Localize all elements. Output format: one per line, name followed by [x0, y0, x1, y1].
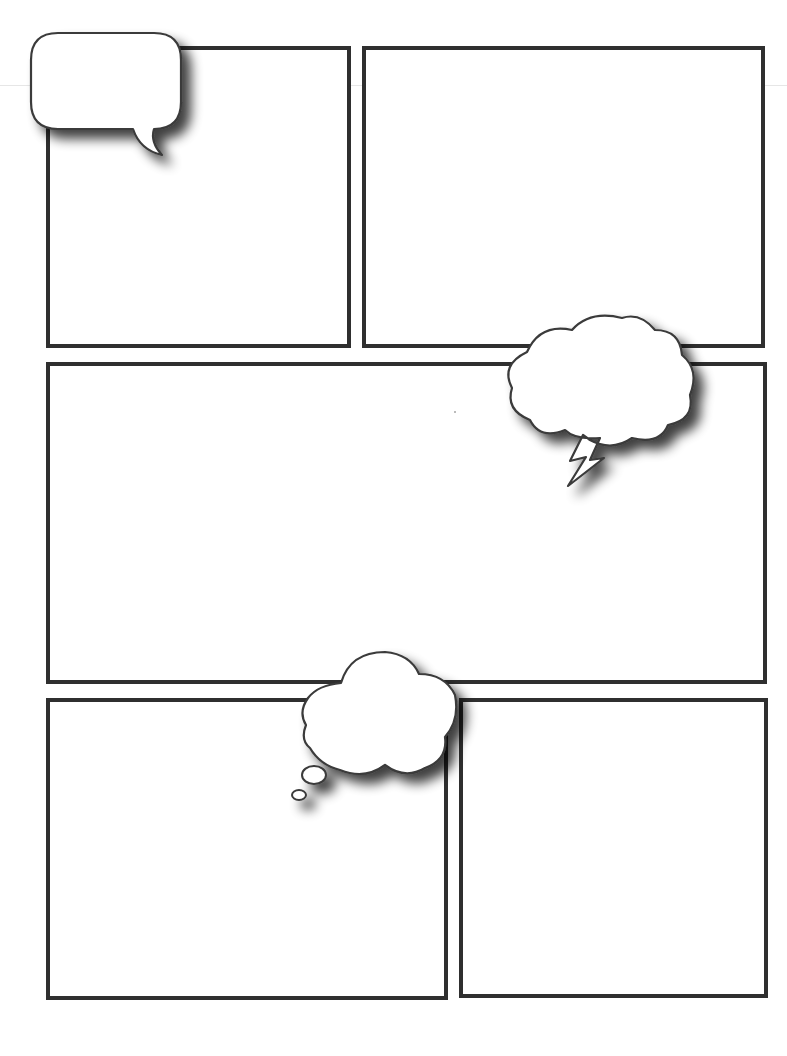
panel-4-label: [50, 702, 51, 703]
panel-5-label: [463, 702, 464, 703]
panel-2-label: [366, 50, 367, 51]
comic-panel-5[interactable]: [459, 698, 768, 998]
comic-panel-2[interactable]: [362, 46, 765, 348]
panel-3-label: [50, 366, 51, 367]
